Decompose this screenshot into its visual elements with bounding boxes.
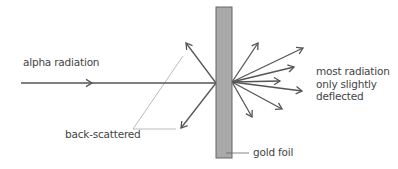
forward-label: most radiation only slightly deflected [316, 65, 390, 103]
deflected-arrow-3 [232, 67, 294, 82]
rutherford-scattering-diagram: alpha radiation back-scattered gold foil… [0, 0, 398, 169]
alpha-radiation-label: alpha radiation [23, 56, 99, 69]
deflected-arrow-4 [232, 81, 280, 82]
gold-foil-label: gold foil [253, 146, 293, 159]
back-scattered-label: back-scattered [65, 128, 141, 141]
back-scattered-leader-line [133, 56, 183, 129]
gold-foil [216, 7, 232, 158]
deflected-arrow-5 [232, 82, 302, 91]
forward-label-line-2: only slightly [316, 78, 390, 91]
forward-label-line-3: deflected [316, 90, 390, 103]
deflected-arrow-1-head-icon [252, 43, 258, 50]
back-scattered-arrow-2 [181, 83, 216, 128]
forward-label-line-1: most radiation [316, 65, 390, 78]
back-scattered-arrow-1 [186, 43, 216, 83]
